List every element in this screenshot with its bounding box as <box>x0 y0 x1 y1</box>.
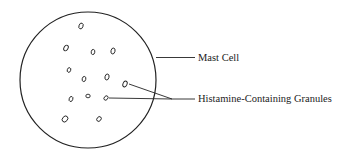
granule <box>61 115 69 123</box>
granule <box>82 76 87 82</box>
mast-cell-label: Mast Cell <box>198 52 239 63</box>
granule <box>122 80 128 87</box>
granule <box>78 22 84 29</box>
granule-leader-line-2 <box>109 98 172 99</box>
granule <box>86 94 90 98</box>
granule <box>96 116 102 123</box>
granule <box>91 49 95 55</box>
granule <box>110 48 115 55</box>
mast-cell-outline <box>20 12 156 148</box>
granule <box>68 96 73 102</box>
mast-cell-diagram <box>0 0 359 159</box>
granule <box>104 74 109 81</box>
granules <box>61 22 128 123</box>
granules-label: Histamine-Containing Granules <box>198 93 332 104</box>
granule <box>63 44 69 51</box>
granule <box>67 67 72 73</box>
granule <box>103 95 109 101</box>
granule-leader-line-1 <box>129 84 195 99</box>
